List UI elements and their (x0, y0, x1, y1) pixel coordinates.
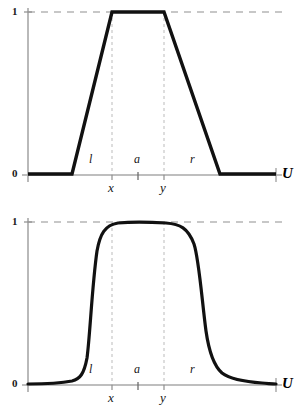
membership-curve-trapezoid (28, 12, 276, 174)
x-axis-label-universe: U (282, 376, 293, 391)
smooth-plot-svg (0, 206, 300, 411)
membership-curve-smooth (28, 222, 276, 384)
y-axis-label-one: 1 (12, 6, 18, 17)
x-tick-label-x: x (108, 391, 114, 404)
y-axis-label-one: 1 (12, 216, 18, 227)
trapezoid-plot-svg (0, 0, 300, 205)
region-label-left: l (89, 153, 92, 165)
chart-smooth-membership: 1 0 l a r x y U (0, 206, 300, 411)
x-tick-label-x: x (108, 181, 114, 194)
y-axis-label-zero: 0 (12, 168, 18, 179)
region-label-center: a (134, 363, 140, 375)
figure-container: 1 0 l a r x y U (0, 0, 300, 411)
x-tick-label-y: y (160, 181, 166, 194)
region-label-right: r (190, 153, 195, 165)
region-label-center: a (134, 153, 140, 165)
x-axis-label-universe: U (282, 166, 293, 181)
chart-trapezoidal-membership: 1 0 l a r x y U (0, 0, 300, 205)
region-label-right: r (190, 363, 195, 375)
y-axis-label-zero: 0 (12, 378, 18, 389)
x-tick-label-y: y (160, 391, 166, 404)
region-label-left: l (89, 363, 92, 375)
